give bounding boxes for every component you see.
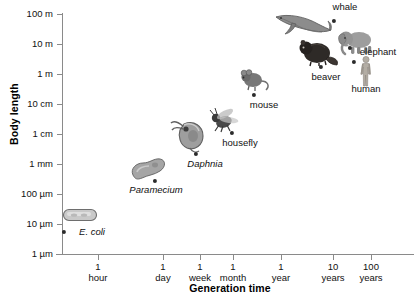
datapoint-label-beaver: beaver — [311, 71, 340, 82]
datapoint-label-daphnia: Daphnia — [187, 158, 222, 169]
daphnia-illustration — [170, 116, 210, 154]
datapoint-label-housefly: housefly — [222, 137, 257, 148]
x-tick-label-hour-value: 1 — [68, 261, 128, 272]
x-tick-label-year-value: 1 — [251, 261, 311, 272]
x-tick-mark — [371, 255, 372, 260]
datapoint-label-mouse: mouse — [250, 99, 279, 110]
x-tick-mark — [333, 255, 334, 260]
x-tick-label-100-years: 100 years — [341, 261, 401, 283]
x-tick-mark — [281, 255, 282, 260]
y-tick-mark — [57, 134, 62, 135]
y-tick-mark — [57, 254, 62, 255]
datapoint-label-paramecium: Paramecium — [129, 184, 182, 195]
x-tick-label-100-years-value: 100 — [341, 261, 401, 272]
datapoint-e-coli[interactable] — [62, 230, 66, 234]
y-tick-mark — [57, 104, 62, 105]
e-coli-illustration — [62, 207, 98, 223]
x-tick-mark — [200, 255, 201, 260]
datapoint-elephant[interactable] — [348, 46, 352, 50]
y-tick-mark — [57, 224, 62, 225]
y-tick-label-100m: 100 m — [0, 9, 53, 19]
x-tick-mark — [163, 255, 164, 260]
y-tick-mark — [57, 44, 62, 45]
y-tick-label-100um: 100 µm — [0, 189, 53, 199]
datapoint-housefly[interactable] — [230, 131, 234, 135]
datapoint-label-e-coli: E. coli — [79, 226, 105, 237]
housefly-illustration — [207, 105, 241, 133]
y-tick-label-1um: 1 µm — [0, 249, 53, 259]
datapoint-daphnia[interactable] — [194, 152, 198, 156]
x-tick-mark — [233, 255, 234, 260]
y-tick-mark — [57, 194, 62, 195]
datapoint-label-human: human — [351, 83, 380, 94]
y-axis-line — [62, 13, 63, 255]
x-axis-title: Generation time — [150, 282, 310, 294]
y-tick-mark — [57, 74, 62, 75]
datapoint-paramecium[interactable] — [153, 179, 157, 183]
paramecium-illustration — [128, 155, 168, 183]
body-length-vs-generation-time-chart: 100 m 10 m 1 m 10 cm 1 cm 1 mm 100 µm 10… — [0, 0, 419, 300]
datapoint-label-whale: whale — [333, 1, 358, 12]
x-tick-label-hour-unit: hour — [68, 272, 128, 283]
mouse-illustration — [238, 68, 274, 94]
whale-illustration — [274, 9, 334, 41]
datapoint-beaver[interactable] — [319, 65, 323, 69]
x-axis-line — [56, 254, 414, 255]
y-tick-label-10um: 10 µm — [0, 219, 53, 229]
x-tick-label-100-years-unit: years — [341, 272, 401, 283]
y-tick-label-10m: 10 m — [0, 39, 53, 49]
datapoint-mouse[interactable] — [252, 93, 256, 97]
y-axis-title: Body length — [8, 64, 20, 164]
x-tick-label-hour: 1 hour — [68, 261, 128, 283]
datapoint-whale[interactable] — [332, 19, 336, 23]
datapoint-label-elephant: elephant — [360, 46, 396, 57]
beaver-illustration — [297, 35, 341, 67]
y-tick-mark — [57, 164, 62, 165]
x-tick-mark — [98, 255, 99, 260]
y-tick-mark — [57, 14, 62, 15]
datapoint-human[interactable] — [352, 60, 356, 64]
x-tick-label-year: 1 year — [251, 261, 311, 283]
